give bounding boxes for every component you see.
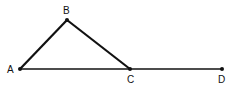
point-c [128,67,132,71]
label-a: A [7,64,14,75]
segment-ab [20,20,67,69]
triangle-diagram: A B C D [0,0,234,89]
segment-bc [67,20,130,69]
label-d: D [218,74,225,85]
point-d [220,67,224,71]
label-c: C [127,74,134,85]
label-b: B [63,5,70,16]
point-b [65,18,69,22]
point-a [18,67,22,71]
